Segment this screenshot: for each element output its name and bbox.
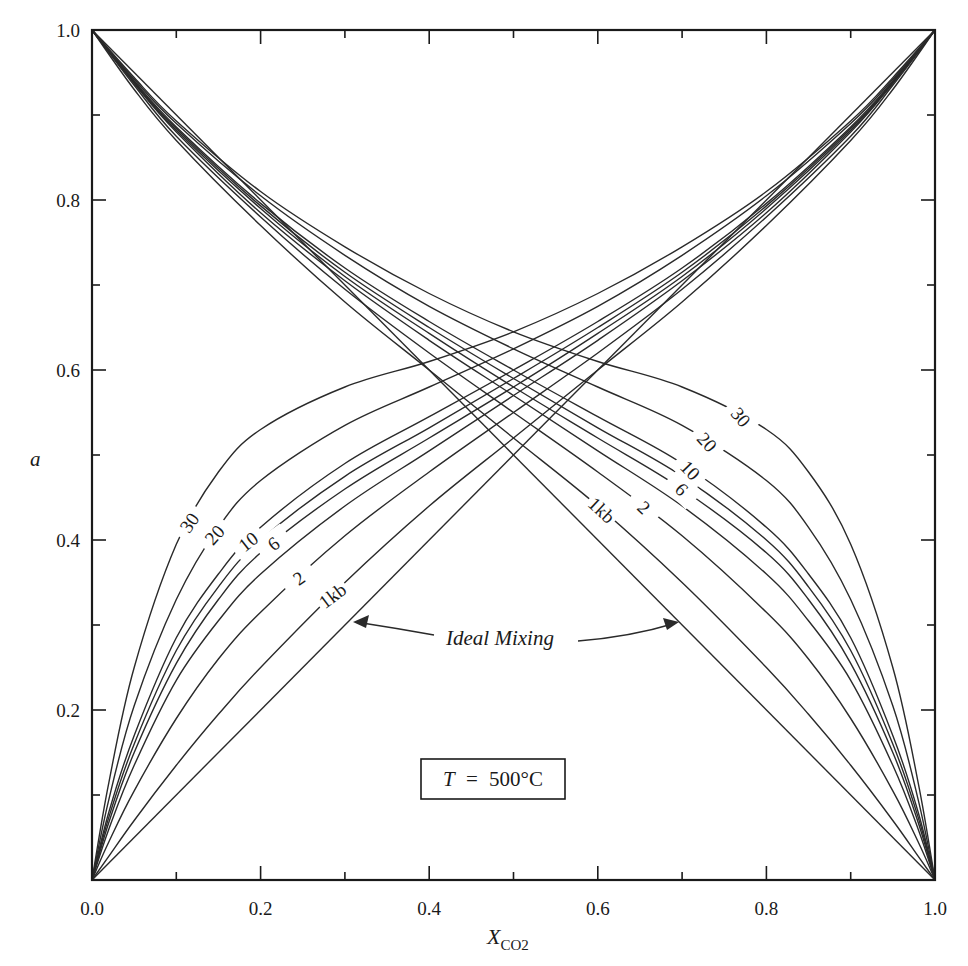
x-tick-label: 0.0 <box>80 898 104 919</box>
x-tick-label: 1.0 <box>923 898 947 919</box>
y-tick-label: 0.6 <box>56 360 80 381</box>
x-tick-labels: 0.00.20.40.60.81.0 <box>80 898 947 919</box>
activity-composition-chart: 302010621kb302010621kb 0.00.20.40.60.81.… <box>0 0 968 966</box>
y-tick-label: 0.4 <box>56 530 80 551</box>
svg-text:T = 500°C: T = 500°C <box>443 767 543 791</box>
y-tick-label: 1.0 <box>56 20 80 41</box>
y-axis-label: a <box>30 447 41 471</box>
left-arrowhead-icon <box>353 615 369 628</box>
y-tick-label: 0.2 <box>56 700 80 721</box>
x-tick-label: 0.8 <box>755 898 779 919</box>
x-tick-label: 0.2 <box>249 898 273 919</box>
x-tick-label: 0.4 <box>417 898 441 919</box>
x-tick-label: 0.6 <box>586 898 610 919</box>
ideal-mixing-annotation: Ideal Mixing <box>353 615 679 650</box>
temperature-box: T = 500°C <box>421 759 565 799</box>
ideal-mixing-label: Ideal Mixing <box>445 626 554 650</box>
ideal-mixing-right-arrow <box>578 623 676 641</box>
y-tick-labels: 0.20.40.60.81.0 <box>56 20 80 721</box>
ideal-mixing-left-arrow <box>356 622 434 635</box>
y-tick-label: 0.8 <box>56 190 80 211</box>
curve-label-masks <box>169 396 761 615</box>
x-axis-label: XCO2 <box>486 924 529 953</box>
curve-labels: 302010621kb302010621kb <box>175 403 755 613</box>
